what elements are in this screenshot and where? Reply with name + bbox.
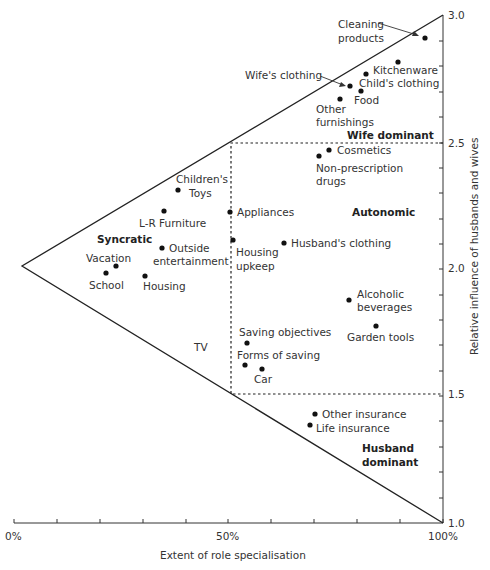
label-toys-1: Children's (176, 173, 228, 185)
x-tick-50: 50% (216, 530, 239, 542)
label-nonpresc-2: drugs (316, 175, 346, 187)
label-outside-1: Outside (169, 242, 210, 254)
y-tick-1-5: 1.5 (448, 388, 465, 400)
region-husband-dominant-1: Husband (362, 442, 414, 454)
region-syncratic: Syncratic (97, 233, 152, 245)
label-alcoholic-1: Alcoholic (357, 288, 404, 300)
label-food: Food (354, 94, 379, 106)
x-tick-0: 0% (5, 530, 22, 542)
label-vacation: Vacation (86, 252, 131, 264)
label-forms-of-saving: Forms of saving (237, 349, 320, 361)
label-cosmetics: Cosmetics (337, 144, 391, 156)
label-other-insurance: Other insurance (322, 408, 407, 420)
y-axis-title: Relative influence of husbands and wives (468, 138, 480, 355)
y-tick-3-0: 3.0 (448, 9, 465, 21)
label-housing: Housing (143, 280, 186, 292)
region-wife-dominant: Wife dominant (347, 129, 434, 141)
label-tv: TV (193, 341, 208, 353)
region-husband-dominant-2: dominant (362, 456, 418, 468)
region-autonomic: Autonomic (352, 206, 415, 218)
label-nonpresc-1: Non-prescription (316, 162, 403, 174)
label-appliances: Appliances (237, 206, 294, 218)
label-kitchenware: Kitchenware (373, 64, 438, 76)
label-school: School (89, 279, 124, 291)
label-wifes-clothing: Wife's clothing (245, 69, 322, 81)
label-housing-upkeep-2: upkeep (236, 260, 275, 272)
x-axis-ticks (14, 519, 443, 523)
cleaning-arrow (378, 23, 419, 36)
y-tick-1-0: 1.0 (448, 517, 465, 529)
y-tick-2-5: 2.5 (448, 137, 465, 149)
label-husbands-clothing: Husband's clothing (291, 237, 391, 249)
label-toys-2: Toys (188, 187, 212, 199)
label-life-insurance: Life insurance (316, 422, 390, 434)
label-other-furn-1: Other (316, 103, 346, 115)
label-car: Car (254, 373, 273, 385)
label-cleaning-1: Cleaning (338, 18, 384, 30)
label-housing-upkeep-1: Housing (236, 246, 279, 258)
x-axis-title: Extent of role specialisation (160, 549, 306, 561)
label-childs-clothing: Child's clothing (359, 77, 439, 89)
label-outside-2: entertainment (153, 255, 229, 267)
label-lr-furniture: L-R Furniture (139, 217, 206, 229)
label-other-furn-2: furnishings (316, 116, 374, 128)
label-cleaning-2: products (338, 32, 384, 44)
y-tick-2-0: 2.0 (448, 262, 465, 274)
label-saving-objectives: Saving objectives (239, 326, 331, 338)
role-specialisation-chart: 0% 50% 100% 3.0 2.5 2.0 1.5 1.0 Extent o… (0, 0, 490, 570)
label-garden-tools: Garden tools (347, 331, 414, 343)
y-axis-ticks (439, 41, 443, 498)
x-tick-100: 100% (428, 530, 458, 542)
label-alcoholic-2: beverages (357, 301, 412, 313)
